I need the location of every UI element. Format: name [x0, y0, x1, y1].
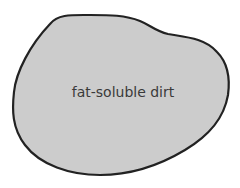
diagram-canvas: fat-soluble dirt: [0, 0, 240, 188]
blob-diagram: fat-soluble dirt: [0, 0, 240, 188]
blob-label: fat-soluble dirt: [72, 84, 175, 100]
